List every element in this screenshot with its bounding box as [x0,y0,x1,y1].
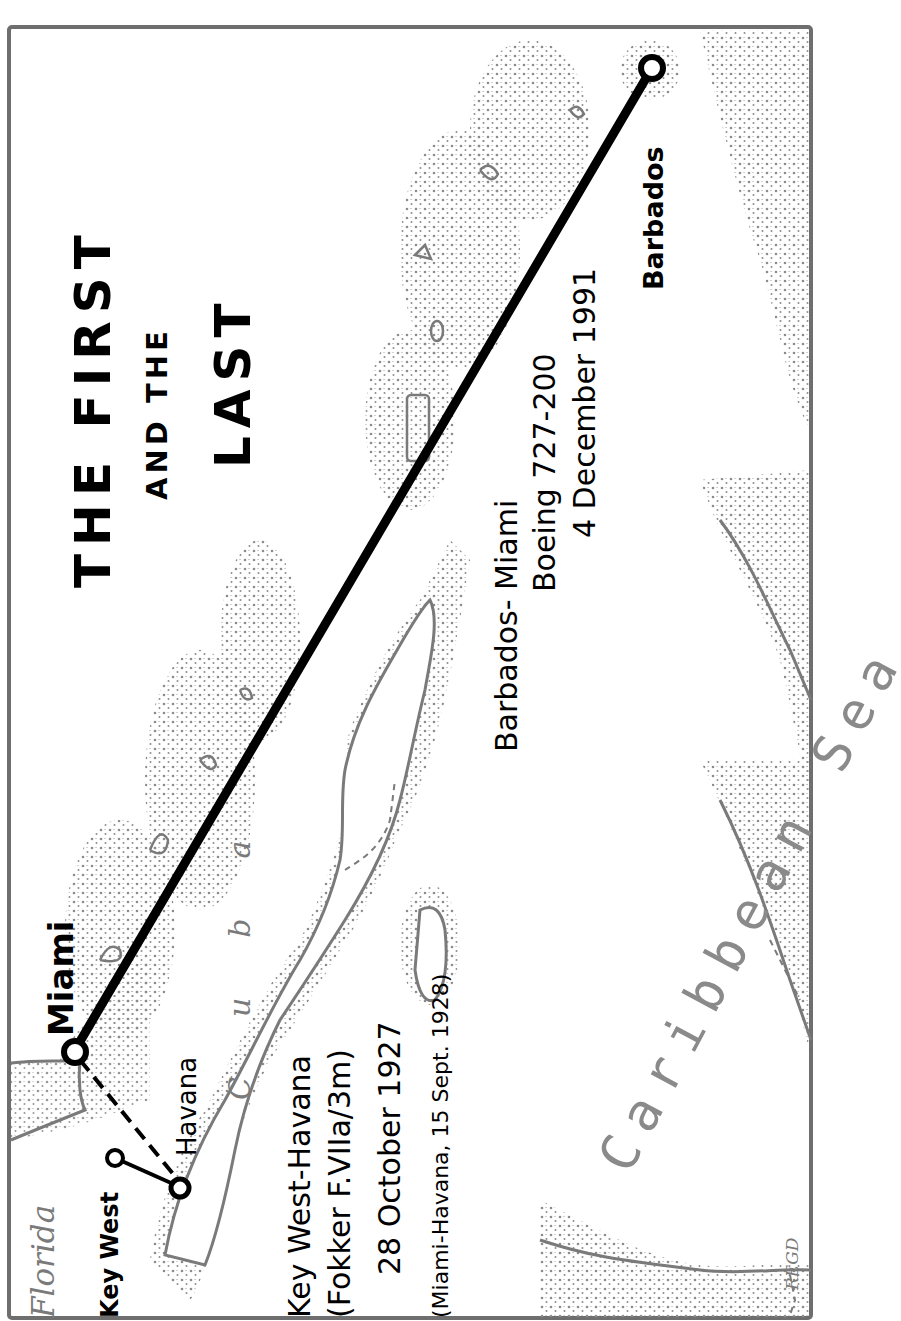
last-flight-route: Barbados- Miami [492,500,522,752]
havana-marker-icon [171,1179,189,1197]
first-flight-date: 28 October 1927 [375,1021,405,1275]
first-flight-note: (Miami-Havana, 15 Sept. 1928) [430,974,452,1318]
title-line-2: AND THE [143,327,172,500]
label-key-west: Key West [98,1192,122,1318]
label-barbados: Barbados [640,146,667,290]
first-flight-route: Key West-Havana [285,1055,315,1318]
artist-mark: REGD [784,1238,801,1290]
miami-marker-icon [64,1041,86,1063]
label-havana: Havana [174,1057,200,1156]
label-florida: Florida [28,1205,59,1318]
barbados-marker-icon [641,57,663,79]
title-line-3: LAST [208,295,258,468]
last-flight-date: 4 December 1991 [570,268,600,538]
key-west-marker-icon [107,1150,123,1166]
title-line-1: THE FIRST [68,227,118,588]
label-cuba: Cuba [225,781,255,1100]
south-america-coast [540,30,811,1318]
label-miami: Miami [44,920,78,1036]
last-flight-aircraft: Boeing 727-200 [530,353,560,592]
first-flight-aircraft: (Fokker F.VIIa/3m) [325,1049,355,1318]
